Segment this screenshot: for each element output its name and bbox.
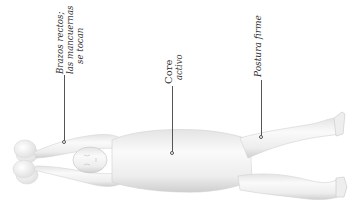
leg-top [240,118,338,158]
body-figure [0,0,359,224]
leader-dot-arms [62,140,66,144]
annotation-core: Core activo [163,54,184,84]
leader-dot-core [170,151,174,155]
foot-bottom [336,177,347,197]
annotation-posture: Postura firme [253,15,263,77]
leader-line-core [172,86,173,152]
annotation-arms: Brazos rectos; las mancuernas se tocan [56,6,86,74]
dumbbell-icon [13,140,38,184]
leader-dot-posture [259,135,263,139]
head [73,147,107,173]
exercise-illustration: Brazos rectos; las mancuernas se tocan C… [0,0,359,224]
leader-line-posture [261,80,262,136]
torso [112,129,252,192]
foot-top [334,112,345,136]
leader-line-arms [64,75,65,141]
leg-bottom [238,174,340,200]
